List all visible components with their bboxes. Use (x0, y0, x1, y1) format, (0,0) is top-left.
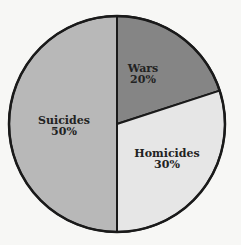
slice-percent-homicides: 30% (134, 159, 199, 170)
pie-chart-svg (0, 0, 241, 245)
pie-chart: Wars 20% Homicides 30% Suicides 50% (0, 0, 241, 245)
slice-percent-suicides: 50% (38, 126, 90, 137)
slice-label-homicides: Homicides 30% (134, 148, 199, 170)
slice-label-suicides: Suicides 50% (38, 115, 90, 137)
slice-percent-wars: 20% (128, 74, 159, 85)
slice-label-wars: Wars 20% (128, 63, 159, 85)
